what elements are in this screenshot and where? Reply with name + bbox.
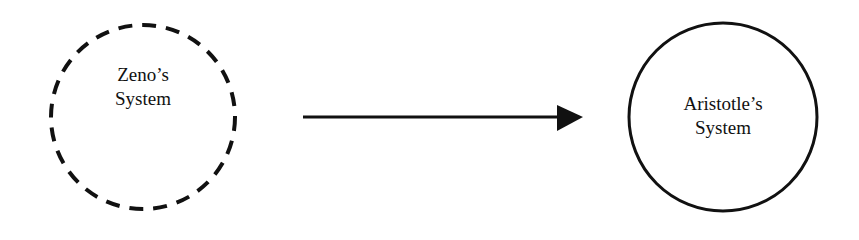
aristotle-label-line2: System xyxy=(663,116,783,140)
zeno-label-line1: Zeno’s xyxy=(92,63,194,87)
zeno-label-line2: System xyxy=(92,87,194,111)
aristotle-system-label: Aristotle’s System xyxy=(663,92,783,140)
zeno-system-label: Zeno’s System xyxy=(92,63,194,111)
arrowhead-icon xyxy=(557,105,583,131)
zeno-system-node xyxy=(51,25,235,209)
aristotle-label-line1: Aristotle’s xyxy=(663,92,783,116)
